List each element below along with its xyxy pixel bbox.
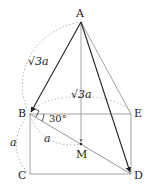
label-am-length: √3a xyxy=(71,89,92,100)
label-angle: 30° xyxy=(49,114,67,124)
label-bm-length: a xyxy=(44,133,51,144)
label-ab-length: √3a xyxy=(28,56,49,67)
label-point-e: E xyxy=(134,108,142,119)
arc-bc-dotted xyxy=(17,114,31,174)
point-m-dot xyxy=(80,143,83,146)
label-point-d: D xyxy=(134,170,143,181)
label-point-b: B xyxy=(18,108,26,119)
label-point-m: M xyxy=(76,149,87,160)
label-bc-length: a xyxy=(10,137,17,148)
label-point-a: A xyxy=(76,8,84,19)
label-point-c: C xyxy=(18,170,26,181)
angle-arc-30 xyxy=(42,114,44,121)
